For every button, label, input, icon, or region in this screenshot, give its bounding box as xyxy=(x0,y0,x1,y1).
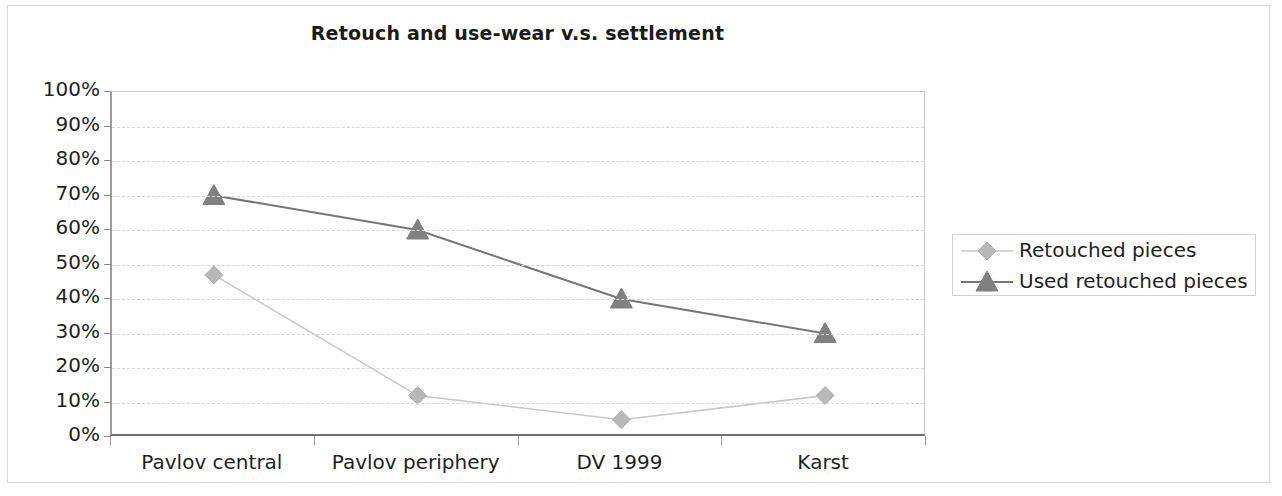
data-point-marker xyxy=(610,288,632,308)
x-axis-tick-mark xyxy=(110,436,111,445)
legend-label: Retouched pieces xyxy=(1019,238,1196,262)
x-axis-tick-mark xyxy=(314,436,315,445)
y-axis-tick-mark xyxy=(104,367,111,368)
y-axis-tick-label: 80% xyxy=(8,146,100,170)
y-axis-tick-mark xyxy=(104,195,111,196)
data-point-marker xyxy=(612,411,630,429)
legend-entry[interactable]: Used retouched pieces xyxy=(953,266,1255,297)
plot-area xyxy=(110,91,925,436)
gridline xyxy=(112,230,924,231)
gridline xyxy=(112,265,924,266)
gridline xyxy=(112,403,924,404)
y-axis-tick-label: 90% xyxy=(8,112,100,136)
series-1 xyxy=(205,266,834,429)
y-axis-tick-mark xyxy=(104,91,111,92)
y-axis-tick-mark xyxy=(104,298,111,299)
gridline xyxy=(112,161,924,162)
series-line xyxy=(214,275,825,420)
x-axis-tick-mark xyxy=(721,436,722,445)
y-axis-tick-mark xyxy=(104,264,111,265)
legend-entry[interactable]: Retouched pieces xyxy=(953,235,1255,266)
x-axis-tick-label: DV 1999 xyxy=(576,450,662,474)
gridline xyxy=(112,334,924,335)
gridline xyxy=(112,127,924,128)
gridline xyxy=(112,299,924,300)
data-point-marker xyxy=(205,266,223,284)
x-axis-tick-label: Karst xyxy=(797,450,849,474)
y-axis-tick-label: 20% xyxy=(8,353,100,377)
x-axis-tick-mark xyxy=(518,436,519,445)
chart-figure: Retouch and use-wear v.s. settlement Ret… xyxy=(0,0,1282,496)
chart-title: Retouch and use-wear v.s. settlement xyxy=(110,22,925,44)
series-2 xyxy=(203,185,836,343)
chart-legend: Retouched piecesUsed retouched pieces xyxy=(952,234,1256,296)
diamond-marker-icon xyxy=(959,235,1015,266)
gridline xyxy=(112,368,924,369)
y-axis-tick-mark xyxy=(104,333,111,334)
y-axis-tick-mark xyxy=(104,229,111,230)
y-axis-tick-mark xyxy=(104,126,111,127)
y-axis-tick-label: 60% xyxy=(8,215,100,239)
x-axis-tick-mark xyxy=(925,436,926,445)
y-axis-tick-label: 30% xyxy=(8,319,100,343)
y-axis-tick-label: 70% xyxy=(8,181,100,205)
x-axis-tick-label: Pavlov central xyxy=(141,450,282,474)
y-axis-tick-label: 50% xyxy=(8,250,100,274)
y-axis-tick-mark xyxy=(104,160,111,161)
y-axis-tick-label: 40% xyxy=(8,284,100,308)
y-axis-tick-label: 0% xyxy=(8,422,100,446)
triangle-marker-icon xyxy=(959,266,1015,297)
legend-label: Used retouched pieces xyxy=(1019,269,1248,293)
y-axis-tick-mark xyxy=(104,402,111,403)
gridline xyxy=(112,196,924,197)
y-axis-tick-label: 10% xyxy=(8,388,100,412)
y-axis-tick-label: 100% xyxy=(8,77,100,101)
data-point-marker xyxy=(203,185,225,205)
x-axis-tick-label: Pavlov periphery xyxy=(332,450,500,474)
